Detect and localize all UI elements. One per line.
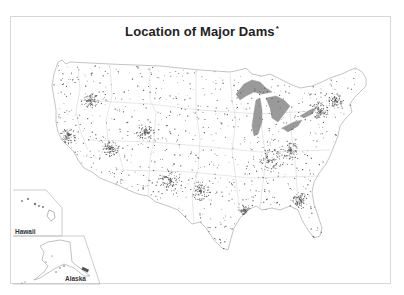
hawaii-big-island (47, 210, 55, 221)
hawaii-label: Hawaii (15, 228, 36, 235)
us-dams-map (0, 0, 404, 295)
alaska-inset-border (13, 236, 100, 284)
dam-markers (54, 65, 357, 249)
lake-michigan (252, 98, 262, 136)
lake-ontario (300, 108, 316, 118)
lake-huron (266, 96, 290, 122)
contiguous-us-outline (52, 60, 366, 250)
alaska-outline (34, 240, 90, 280)
state-boundaries (76, 66, 330, 222)
lake-erie (282, 120, 302, 132)
alaska-label: Alaska (65, 275, 86, 282)
great-lakes (236, 80, 316, 136)
hawaii-islands (21, 198, 44, 208)
lake-superior (236, 80, 272, 100)
alaska-inset (13, 236, 100, 284)
